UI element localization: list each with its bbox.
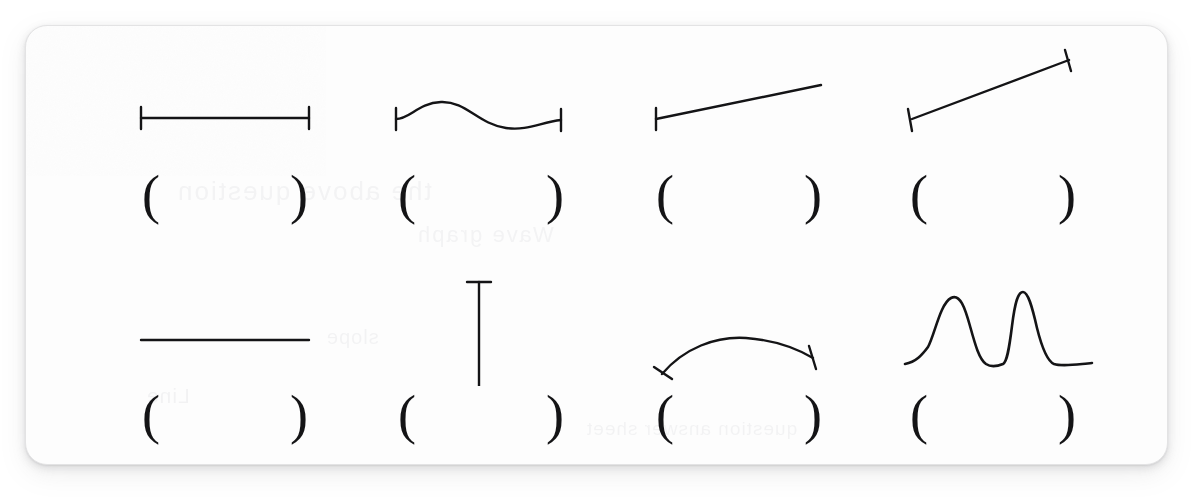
worksheet-card: the above question Wave graph slope Line… (25, 25, 1168, 465)
glyph-plain-horizontal-line-icon (92, 254, 342, 386)
question-cell-7: ( ) (606, 254, 856, 449)
page-root: the above question Wave graph slope Line… (0, 0, 1196, 497)
glyph-horizontal-line-with-end-caps-icon (92, 34, 342, 166)
open-paren: ( (398, 164, 416, 226)
close-paren: ) (804, 164, 822, 226)
answer-slot-2[interactable]: ( ) (348, 164, 598, 226)
glyph-gentle-upward-slope-line-icon (606, 34, 856, 166)
close-paren: ) (546, 384, 564, 446)
close-paren: ) (804, 384, 822, 446)
question-cell-6: ( ) (348, 254, 598, 449)
close-paren: ) (1058, 384, 1076, 446)
close-paren: ) (290, 384, 308, 446)
glyph-steep-upward-slope-line-with-end-caps-icon (860, 34, 1110, 166)
open-paren: ( (398, 384, 416, 446)
question-grid: ( ) ( ) (26, 26, 1167, 464)
open-paren: ( (656, 164, 674, 226)
answer-slot-8[interactable]: ( ) (860, 384, 1110, 446)
answer-slot-3[interactable]: ( ) (606, 164, 856, 226)
open-paren: ( (910, 164, 928, 226)
answer-slot-1[interactable]: ( ) (92, 164, 342, 226)
close-paren: ) (290, 164, 308, 226)
answer-slot-5[interactable]: ( ) (92, 384, 342, 446)
open-paren: ( (142, 164, 160, 226)
answer-slot-7[interactable]: ( ) (606, 384, 856, 446)
open-paren: ( (656, 384, 674, 446)
glyph-vertical-line-with-end-caps-icon (348, 254, 598, 386)
answer-slot-6[interactable]: ( ) (348, 384, 598, 446)
open-paren: ( (142, 384, 160, 446)
question-cell-1: ( ) (92, 34, 342, 229)
open-paren: ( (910, 384, 928, 446)
question-cell-8: ( ) (860, 254, 1110, 449)
answer-slot-4[interactable]: ( ) (860, 164, 1110, 226)
close-paren: ) (546, 164, 564, 226)
glyph-s-curve-wave-with-end-caps-icon (348, 34, 598, 166)
question-cell-5: ( ) (92, 254, 342, 449)
glyph-double-peak-curve-icon (860, 254, 1110, 386)
question-cell-4: ( ) (860, 34, 1110, 229)
question-cell-3: ( ) (606, 34, 856, 229)
question-cell-2: ( ) (348, 34, 598, 229)
glyph-concave-down-arc-with-end-caps-icon (606, 254, 856, 386)
close-paren: ) (1058, 164, 1076, 226)
